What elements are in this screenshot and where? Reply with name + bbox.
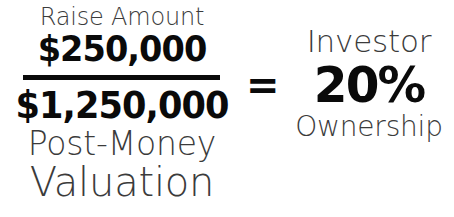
ownership-label: Ownership (290, 111, 448, 142)
equity-dilution-formula-graphic: Raise Amount $250,000 $1,250,000 Post-Mo… (0, 0, 454, 217)
post-money-valuation-value: $1,250,000 (14, 85, 231, 127)
raise-amount-value: $250,000 (13, 29, 232, 69)
raise-amount-label: Raise Amount (8, 4, 236, 30)
fraction-block: Raise Amount $250,000 $1,250,000 Post-Mo… (8, 0, 236, 217)
investor-label: Investor (290, 24, 448, 58)
ownership-percentage-value: 20% (292, 57, 445, 113)
result-block: Investor 20% Ownership (290, 0, 448, 217)
fraction-divider-bar (23, 75, 220, 80)
valuation-label: Valuation (8, 160, 236, 204)
post-money-label: Post-Money (8, 126, 236, 162)
equals-icon: = (246, 64, 278, 106)
